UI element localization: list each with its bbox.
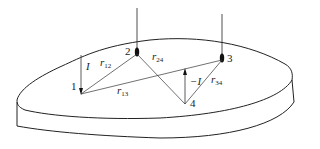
plate-side-right [292, 80, 294, 102]
current-label-sink: −I [190, 75, 202, 87]
current-label-source: I [85, 60, 91, 72]
point-label-3: 3 [227, 52, 233, 64]
distance-label-r13: r13 [117, 84, 129, 98]
point-label-1: 1 [71, 80, 77, 92]
electrode-3-tip [220, 54, 224, 63]
point-label-4: 4 [190, 97, 196, 109]
distance-label-r24: r24 [152, 50, 164, 64]
plate-bottom-edge [17, 102, 294, 138]
distance-label-r34: r34 [211, 73, 223, 87]
distance-label-r12: r12 [100, 56, 112, 70]
four-point-probe-diagram: 1 2 3 4 I −I r12 r13 r24 r34 [0, 0, 320, 149]
point-label-2: 2 [125, 45, 131, 57]
